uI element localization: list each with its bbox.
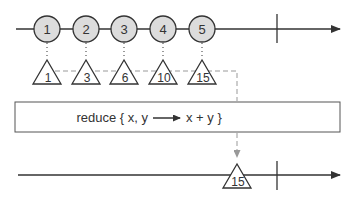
accumulation-triangle: 1 bbox=[33, 60, 61, 85]
marble-value: 5 bbox=[198, 22, 205, 37]
accumulation-value: 10 bbox=[157, 71, 171, 85]
operator-label-suffix: x + y } bbox=[186, 110, 222, 125]
accumulation-triangle: 10 bbox=[149, 60, 177, 85]
marble-value: 3 bbox=[120, 22, 127, 37]
marble: 5 bbox=[189, 16, 215, 42]
output-value: 15 bbox=[231, 175, 245, 189]
marble-diagram: 1 2 3 4 5 1 3 6 bbox=[0, 0, 351, 197]
marble: 2 bbox=[73, 16, 99, 42]
marble-value: 2 bbox=[82, 22, 89, 37]
operator-box: reduce { x, y x + y } bbox=[15, 102, 340, 132]
marble-value: 1 bbox=[43, 22, 50, 37]
marble: 3 bbox=[111, 16, 137, 42]
accumulation-value: 6 bbox=[122, 71, 129, 85]
accumulation-triangles: 1 3 6 10 15 bbox=[33, 60, 216, 85]
accumulation-triangle: 6 bbox=[110, 60, 138, 85]
input-timeline bbox=[16, 14, 340, 43]
accumulation-triangle: 15 bbox=[188, 60, 216, 85]
accumulation-triangle: 3 bbox=[72, 60, 100, 85]
output-triangle: 15 bbox=[223, 164, 251, 189]
accumulation-value: 1 bbox=[45, 71, 52, 85]
marble-value: 4 bbox=[159, 22, 166, 37]
dotted-connectors bbox=[47, 43, 202, 59]
operator-label-prefix: reduce { x, y bbox=[76, 110, 148, 125]
marble: 4 bbox=[150, 16, 176, 42]
marble: 1 bbox=[34, 16, 60, 42]
output-timeline: 15 bbox=[18, 161, 340, 190]
accumulation-value: 15 bbox=[196, 71, 210, 85]
accumulation-value: 3 bbox=[84, 71, 91, 85]
